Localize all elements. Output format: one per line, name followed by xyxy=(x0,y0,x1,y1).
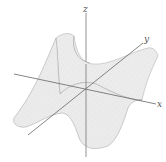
surface-plot: z y x xyxy=(0,0,166,162)
z-axis-label: z xyxy=(82,4,88,14)
y-axis-label: y xyxy=(143,34,150,44)
x-axis-label: x xyxy=(157,99,162,109)
